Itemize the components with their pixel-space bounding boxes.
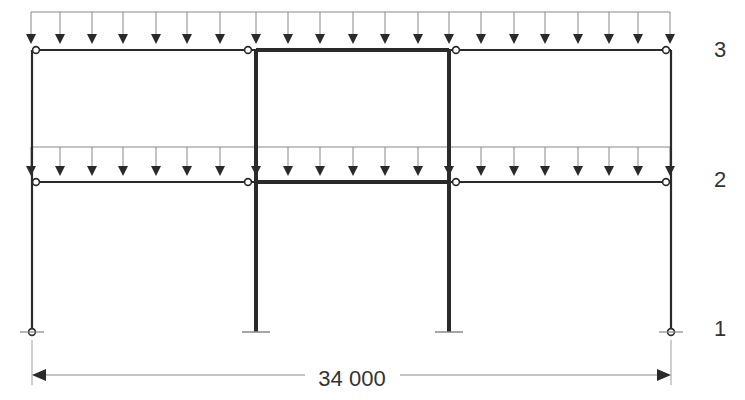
load-arrow-icon	[251, 34, 261, 44]
load-arrow-icon	[315, 166, 325, 176]
load-arrow-icon	[476, 34, 486, 44]
level-label-3: 3	[714, 37, 726, 62]
hinge-icon	[453, 179, 460, 186]
hinges	[29, 47, 675, 336]
load-arrow-icon	[283, 166, 293, 176]
load-arrow-icon	[118, 34, 128, 44]
load-arrow-icon	[348, 166, 358, 176]
arrow-left-icon	[32, 369, 46, 381]
structural-frame-diagram: 3 2 1 34 000	[0, 0, 745, 400]
load-arrow-icon	[55, 166, 65, 176]
load-arrow-icon	[540, 34, 550, 44]
load-arrow-icon	[476, 166, 486, 176]
load-arrow-icon	[633, 34, 643, 44]
load-arrow-icon	[55, 34, 65, 44]
load-arrow-icon	[413, 34, 423, 44]
load-arrow-icon	[604, 34, 614, 44]
load-arrow-icon	[87, 166, 97, 176]
hinge-icon	[245, 179, 252, 186]
load-arrow-icon	[509, 166, 519, 176]
hinge-icon	[33, 47, 40, 54]
load-arrow-icon	[215, 166, 225, 176]
hinge-icon	[33, 179, 40, 186]
load-arrow-icon	[348, 34, 358, 44]
arrow-right-icon	[657, 369, 671, 381]
hinge-icon	[663, 47, 670, 54]
load-arrow-icon	[26, 34, 36, 44]
load-arrow-icon	[604, 166, 614, 176]
load-arrow-icon	[315, 34, 325, 44]
load-arrow-icon	[118, 166, 128, 176]
load-arrow-icon	[665, 34, 675, 44]
load-arrow-icon	[633, 166, 643, 176]
load-arrow-icon	[380, 34, 390, 44]
load-arrow-icon	[182, 34, 192, 44]
load-arrow-icon	[413, 166, 423, 176]
load-arrow-icon	[540, 166, 550, 176]
load-arrow-icon	[151, 166, 161, 176]
load-arrow-icon	[182, 166, 192, 176]
load-arrow-icon	[283, 34, 293, 44]
frame-members	[32, 50, 671, 332]
load-arrow-icon	[573, 166, 583, 176]
hinge-icon	[453, 47, 460, 54]
load-arrow-icon	[573, 34, 583, 44]
hinge-icon	[245, 47, 252, 54]
load-arrow-icon	[380, 166, 390, 176]
load-arrow-icon	[444, 34, 454, 44]
load-arrow-icon	[87, 34, 97, 44]
level-label-2: 2	[714, 167, 726, 192]
distributed-loads	[26, 12, 675, 176]
level-label-1: 1	[714, 316, 726, 341]
hinge-icon	[663, 179, 670, 186]
load-arrow-icon	[509, 34, 519, 44]
load-arrow-icon	[151, 34, 161, 44]
dimension-text: 34 000	[318, 366, 385, 391]
load-arrow-icon	[215, 34, 225, 44]
